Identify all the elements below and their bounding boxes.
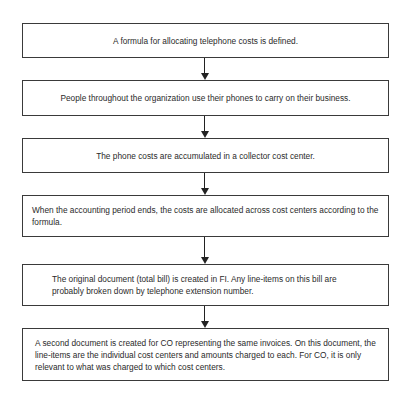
step-text: When the accounting period ends, the cos… [32,204,379,228]
arrow-down-icon [204,173,206,195]
step-box-3: The phone costs are accumulated in a col… [22,138,389,173]
step-box-2: People throughout the organization use t… [22,80,389,116]
step-box-1: A formula for allocating telephone costs… [22,23,389,58]
step-text: The original document (total bill) is cr… [52,273,362,297]
arrow-down-icon [204,306,206,328]
arrow-down-icon [204,116,206,138]
step-box-4: When the accounting period ends, the cos… [22,195,389,237]
arrow-down-icon [204,58,206,80]
step-text: A formula for allocating telephone costs… [23,35,388,47]
step-text: The phone costs are accumulated in a col… [23,150,388,162]
arrow-down-icon [204,237,206,264]
step-box-5: The original document (total bill) is cr… [22,264,389,306]
step-text: People throughout the organization use t… [23,92,388,104]
step-text: A second document is created for CO repr… [35,337,380,373]
step-box-6: A second document is created for CO repr… [22,328,389,381]
